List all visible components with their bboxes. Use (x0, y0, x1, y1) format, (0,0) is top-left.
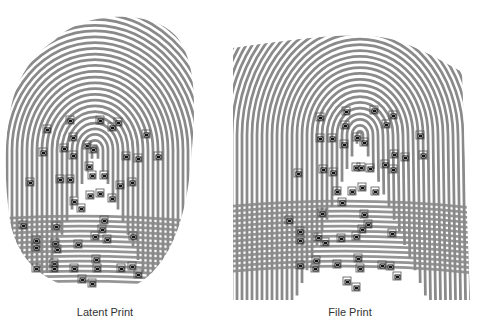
file-minutia-marker (393, 272, 401, 280)
file-minutia-marker (341, 121, 349, 129)
file-minutia-marker (296, 261, 304, 269)
file-minutia-marker (285, 216, 293, 224)
file-minutia-marker (333, 260, 341, 268)
file-minutia-marker (296, 236, 304, 244)
file-minutia-marker (357, 163, 365, 171)
file-minutia-marker (340, 140, 348, 148)
file-minutia-marker (356, 264, 364, 272)
file-minutia-marker (296, 227, 304, 235)
file-minutia-marker (389, 165, 397, 173)
file-minutia-marker (358, 183, 366, 191)
file-minutia-marker (348, 187, 356, 195)
file-minutia-marker (416, 131, 424, 139)
file-minutia-marker (314, 233, 322, 241)
file-minutia-marker (321, 238, 329, 246)
file-minutia-marker (401, 153, 409, 161)
file-print-caption: File Print (305, 306, 395, 318)
file-minutia-marker (370, 106, 378, 114)
file-minutia-marker (338, 198, 346, 206)
file-minutia-marker (381, 160, 389, 168)
file-minutia-marker (358, 225, 366, 233)
file-minutia-marker (333, 187, 341, 195)
file-minutia-marker (354, 254, 362, 262)
latent-minutia-marker (88, 171, 96, 179)
file-minutia-marker (343, 277, 351, 285)
file-minutia-marker (329, 168, 337, 176)
file-minutia-marker (366, 164, 374, 172)
file-minutia-marker (319, 165, 327, 173)
file-minutia-marker (388, 229, 396, 237)
latent-minutia-marker (86, 191, 94, 199)
file-minutia-marker (419, 151, 427, 159)
file-minutia-marker (386, 262, 394, 270)
file-minutia-marker (364, 220, 372, 228)
file-minutia-marker (312, 256, 320, 264)
file-minutia-marker (353, 133, 361, 141)
file-minutia-marker (378, 261, 386, 269)
file-minutia-marker (342, 107, 350, 115)
file-minutia-marker (390, 150, 398, 158)
file-minutia-marker (382, 120, 390, 128)
file-minutia-marker (316, 134, 324, 142)
latent-minutia-marker (96, 189, 104, 197)
file-minutia-marker (352, 163, 360, 171)
latent-print-image (0, 0, 230, 300)
file-minutia-marker (337, 234, 345, 242)
file-minutia-marker (294, 169, 302, 177)
latent-print-caption: Latent Print (60, 306, 150, 318)
file-minutia-marker (352, 283, 360, 291)
file-minutia-marker (371, 187, 379, 195)
file-minutia-marker (328, 134, 336, 142)
file-minutia-marker (352, 232, 360, 240)
file-minutia-marker (316, 113, 324, 121)
file-minutia-marker (360, 210, 368, 218)
file-minutia-marker (318, 209, 326, 217)
file-minutia-marker (360, 138, 368, 146)
file-minutia-marker (311, 264, 319, 272)
file-minutia-marker (389, 111, 397, 119)
latent-print-panel (0, 0, 230, 300)
